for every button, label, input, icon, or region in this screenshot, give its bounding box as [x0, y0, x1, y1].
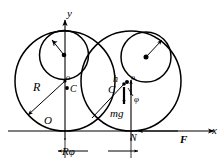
left-mass-center-label: C: [70, 84, 77, 94]
weight-label: mg: [110, 108, 123, 119]
x-axis-label: x: [212, 125, 217, 136]
left-mass-center-dot: [65, 86, 69, 90]
small-radius-label: r: [53, 38, 57, 48]
arc-distance-label: Rφ: [62, 146, 75, 157]
angle-label: φ: [134, 95, 139, 104]
applied-force-label: F: [180, 134, 187, 145]
big-radius-label: R: [33, 81, 40, 93]
y-axis-label: y: [67, 8, 72, 19]
physics-diagram: y r R o C O h o C φ mg N F x Rφ: [0, 0, 224, 165]
normal-force-label: N: [130, 133, 137, 143]
small-radius-arrow-right: [144, 40, 163, 60]
right-center-label: o: [131, 74, 135, 82]
right-mass-center-label: C: [108, 84, 115, 95]
left-center-label: o: [66, 74, 70, 82]
origin-label: O: [44, 115, 52, 126]
